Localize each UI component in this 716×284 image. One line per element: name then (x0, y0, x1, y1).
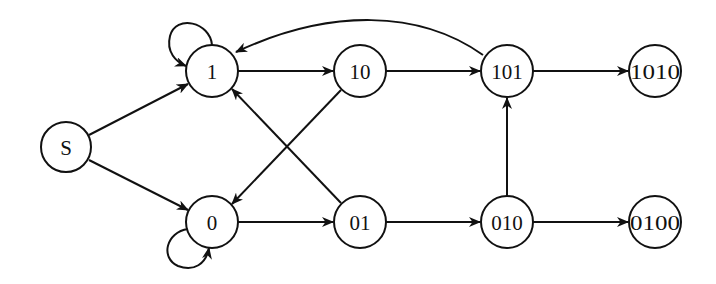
node-label: 10 (350, 60, 371, 84)
node-label: 101 (491, 60, 523, 84)
state-diagram: S 1 0 10 01 101 010 1010 0100 (0, 0, 716, 284)
node-010: 010 (481, 196, 533, 248)
node-0: 0 (186, 196, 238, 248)
node-label: 010 (491, 211, 523, 235)
edge-S-to-1 (89, 84, 188, 135)
node-label: 1010 (630, 60, 680, 84)
node-label: S (60, 136, 72, 160)
edge-S-to-0 (89, 160, 188, 210)
node-S: S (41, 122, 91, 172)
node-1010: 1010 (629, 45, 681, 97)
node-101: 101 (481, 45, 533, 97)
node-label: 01 (350, 211, 371, 235)
node-label: 1 (207, 60, 218, 84)
node-10: 10 (334, 45, 386, 97)
node-label: 0100 (630, 211, 680, 235)
node-1: 1 (186, 45, 238, 97)
node-label: 0 (207, 211, 218, 235)
node-0100: 0100 (629, 196, 681, 248)
node-01: 01 (334, 196, 386, 248)
